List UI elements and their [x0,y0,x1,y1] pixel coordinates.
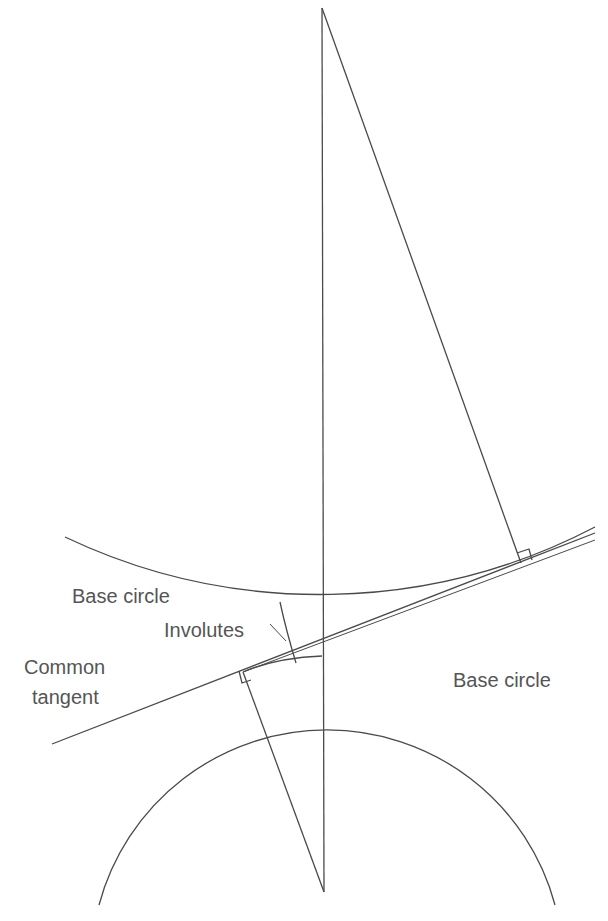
involutes-label: Involutes [164,619,244,641]
involute-diagram: Base circle Involutes Common tangent Bas… [0,0,608,921]
common-tangent-label-2: tangent [32,686,99,708]
common-tangent-line-2 [243,540,595,672]
lower-radius-line [243,672,324,892]
involute-curve-lower [243,656,322,672]
lower-base-circle-label: Base circle [453,669,551,691]
common-tangent-label-1: Common [24,656,105,678]
upper-base-circle-label: Base circle [72,585,170,607]
center-line [322,8,324,892]
involutes-leader [270,624,286,641]
upper-radius-line [322,8,521,563]
lower-base-circle-arc [99,730,555,905]
